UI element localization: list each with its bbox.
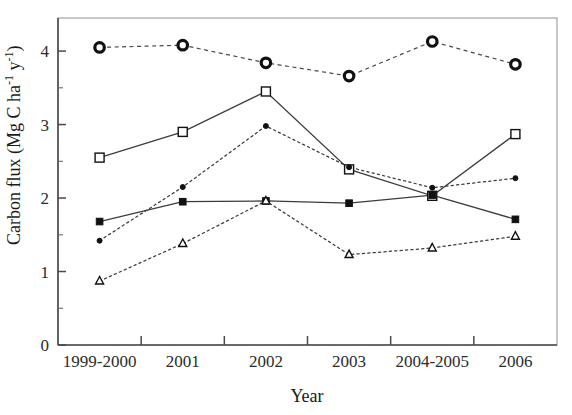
y-title-mid: y: [4, 62, 24, 76]
x-tick-label: 2002: [249, 352, 283, 371]
x-tick-label: 2006: [498, 352, 532, 371]
marker-circle-filled: [263, 124, 268, 129]
y-tick-label: 0: [41, 336, 50, 355]
y-title-sup-2: -1: [2, 52, 16, 62]
plot-area-border: [58, 18, 557, 345]
marker-square-filled: [429, 192, 436, 199]
marker-circle-open: [511, 60, 521, 70]
x-tick-label: 2003: [332, 352, 366, 371]
figure-container: 01234 1999-20002001200220032004-20052006…: [0, 0, 572, 415]
series-line-open-circle: [100, 42, 516, 77]
marker-triangle-open: [511, 232, 519, 240]
marker-square-open: [178, 127, 187, 136]
marker-square-open: [95, 153, 104, 162]
marker-triangle-open: [96, 277, 104, 285]
marker-circle-filled: [347, 165, 352, 170]
y-title-main: Carbon flux: [4, 159, 24, 245]
plot-frame: [58, 18, 557, 345]
marker-square-filled: [179, 198, 186, 205]
series-lines: [100, 42, 516, 282]
series-line-open-triangle: [100, 201, 516, 281]
marker-square-open: [511, 130, 520, 139]
marker-circle-open: [178, 40, 188, 50]
marker-square-open: [261, 87, 270, 96]
marker-square-filled: [96, 218, 103, 225]
marker-square-filled: [512, 216, 519, 223]
y-title-sup-1: -1: [2, 75, 16, 85]
y-axis-title: Carbon flux (Mg C ha-1 y-1): [2, 46, 25, 245]
marker-circle-filled: [180, 185, 185, 190]
x-tick-label: 2004-2005: [395, 352, 469, 371]
marker-circle-filled: [430, 185, 435, 190]
marker-circle-filled: [513, 176, 518, 181]
y-tick-label: 4: [41, 42, 50, 61]
series-line-filled-square: [100, 195, 516, 221]
marker-circle-filled: [97, 238, 102, 243]
y-title-close: ): [4, 46, 25, 52]
marker-circle-open: [95, 43, 105, 53]
svg-text:Carbon flux (Mg C ha-1 y-1): Carbon flux (Mg C ha-1 y-1): [2, 46, 25, 245]
marker-triangle-open: [428, 243, 436, 251]
y-axis-ticks: 01234: [41, 42, 67, 355]
x-tick-label: 1999-2000: [63, 352, 137, 371]
x-axis-title: Year: [290, 386, 323, 406]
marker-square-filled: [346, 200, 353, 207]
marker-circle-open: [261, 58, 271, 68]
marker-circle-open: [344, 71, 354, 81]
series-line-filled-circle: [100, 126, 516, 241]
y-tick-label: 3: [41, 116, 50, 135]
carbon-flux-line-chart: 01234 1999-20002001200220032004-20052006…: [0, 0, 572, 415]
series-line-open-square: [100, 91, 516, 195]
series-markers: [95, 37, 520, 284]
y-tick-label: 2: [41, 189, 50, 208]
marker-circle-open: [428, 37, 438, 47]
x-axis-ticks: 1999-20002001200220032004-20052006: [63, 336, 533, 371]
y-title-units: (Mg C ha: [4, 85, 25, 154]
x-tick-label: 2001: [166, 352, 200, 371]
y-tick-label: 1: [41, 263, 50, 282]
